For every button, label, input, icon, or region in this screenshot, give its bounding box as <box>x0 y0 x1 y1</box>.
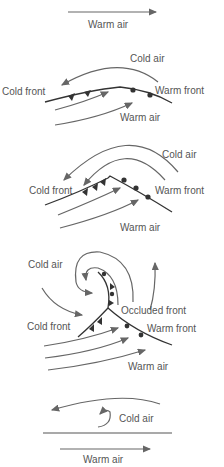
label-cold-air: Cold air <box>28 260 62 270</box>
label-warm-front: Warm front <box>155 186 204 196</box>
warm-front-semicircle <box>133 185 138 190</box>
cold-air-arrow <box>62 68 158 85</box>
warm-front-semicircle <box>125 324 130 329</box>
label-warm-front: Warm front <box>147 324 196 334</box>
label-cold-air: Cold air <box>162 150 196 160</box>
label-cold-air: Cold air <box>130 54 164 64</box>
cold-air-inflow-arrow <box>42 288 82 315</box>
warm-air-arrow <box>45 338 128 358</box>
warm-air-arrow <box>55 92 108 110</box>
label-occluded-front: Occluded front <box>121 306 186 316</box>
occluded-front-semicircle <box>102 272 106 276</box>
warm-front-semicircle <box>139 333 144 338</box>
cold-front-triangle <box>68 93 75 101</box>
label-warm-air: Warm air <box>128 362 168 372</box>
label-warm-air: Warm air <box>120 113 160 123</box>
label-cold-air: Cold air <box>119 414 153 424</box>
label-cold-front: Cold front <box>2 87 45 97</box>
cyclone-diagram <box>0 0 224 467</box>
occluded-front-triangle <box>109 300 114 306</box>
northward-arrow <box>150 263 155 310</box>
label-warm-air: Warm air <box>83 455 123 465</box>
cold-front-triangle <box>100 178 106 186</box>
cold-air-arrow <box>52 398 160 410</box>
eddy-icon <box>98 410 110 427</box>
label-warm-air: Warm air <box>88 20 128 30</box>
label-cold-front: Cold front <box>27 322 70 332</box>
cold-air-spiral-outer <box>76 252 134 302</box>
warm-front-semicircle <box>147 92 152 97</box>
front-line <box>45 87 172 103</box>
label-warm-air: Warm air <box>120 223 160 233</box>
occluded-front-line <box>98 272 109 308</box>
cold-front-triangle <box>84 90 91 97</box>
label-warm-front: Warm front <box>155 86 204 96</box>
label-cold-front: Cold front <box>29 186 72 196</box>
warm-front-semicircle <box>130 87 135 92</box>
warm-front-semicircle <box>145 194 150 199</box>
occluded-front-semicircle <box>110 292 114 296</box>
warm-front-semicircle <box>121 177 126 182</box>
